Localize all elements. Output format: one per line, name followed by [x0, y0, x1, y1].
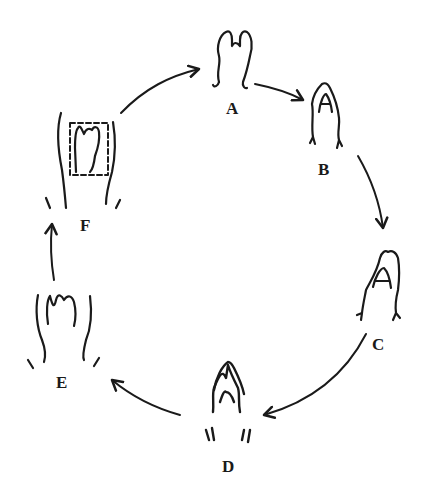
arrow-b-to-c	[358, 156, 383, 228]
arrow-a-to-b	[255, 84, 303, 100]
stage-d-label: D	[222, 457, 234, 476]
cycle-diagram: A B C D	[0, 0, 421, 489]
arrow-f-to-a	[121, 69, 199, 113]
stage-b-label: B	[318, 160, 329, 179]
stage-d: D	[206, 362, 250, 476]
arrow-e-to-f	[51, 224, 54, 280]
stage-f: F	[46, 113, 120, 235]
stage-e-label: E	[56, 373, 67, 392]
stage-a-hand-icon	[213, 31, 252, 88]
stage-f-hand-icon	[46, 113, 120, 208]
stage-d-hand-icon	[206, 362, 250, 442]
stage-f-label: F	[80, 216, 90, 235]
stage-e: E	[28, 295, 99, 392]
arrow-c-to-d	[264, 334, 366, 415]
arrow-d-to-e	[112, 380, 180, 415]
stage-c-label: C	[372, 335, 384, 354]
stage-e-hand-icon	[28, 295, 99, 368]
stage-a-label: A	[226, 99, 239, 118]
stage-b: B	[310, 83, 342, 179]
stage-a: A	[213, 31, 252, 118]
stage-c-hand-icon	[357, 251, 400, 320]
stage-b-hand-icon	[310, 83, 342, 148]
